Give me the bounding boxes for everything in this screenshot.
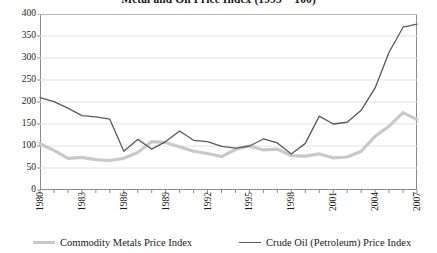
- x-axis-tick-label: 2007: [412, 192, 422, 211]
- y-axis-tick-label: 250: [2, 75, 36, 85]
- x-axis-tick-label: 1992: [203, 192, 213, 211]
- x-axis-tick-label: 2001: [328, 192, 338, 211]
- x-axis-tick-label: 1986: [119, 192, 129, 211]
- plot-area: [40, 14, 417, 190]
- legend-item-crude-oil: Crude Oil (Petroleum) Price Index: [239, 232, 411, 253]
- series-line-crude-oil: [40, 24, 417, 154]
- chart-title: Metal and Oil Price Index (1995 = 100): [0, 0, 437, 6]
- y-axis-tick-labels: 050100150200250300350400: [0, 14, 36, 190]
- chart-svg: [36, 14, 421, 195]
- y-axis-tick-label: 350: [2, 31, 36, 41]
- y-axis-tick-label: 150: [2, 119, 36, 129]
- legend-item-commodity-metals: Commodity Metals Price Index: [33, 232, 192, 253]
- legend-swatch-metals-icon: [33, 241, 55, 244]
- chart-figure: Metal and Oil Price Index (1995 = 100) 0…: [0, 0, 437, 253]
- y-axis-tick-label: 50: [2, 163, 36, 173]
- legend-swatch-oil-icon: [239, 242, 261, 243]
- y-axis-tick-label: 0: [2, 185, 36, 195]
- x-axis-tick-label: 1995: [244, 192, 254, 211]
- x-axis-tick-label: 1983: [77, 192, 87, 211]
- legend-label-metals: Commodity Metals Price Index: [60, 237, 192, 248]
- x-axis-tick-labels: 1980198319861989199219951998200120042007: [40, 192, 417, 232]
- series-line-metals: [40, 113, 417, 161]
- x-axis-tick-label: 1989: [161, 192, 171, 211]
- legend-label-oil: Crude Oil (Petroleum) Price Index: [266, 237, 411, 248]
- y-axis-tick-label: 100: [2, 141, 36, 151]
- y-axis-tick-label: 200: [2, 97, 36, 107]
- x-axis-tick-label: 2004: [370, 192, 380, 211]
- x-axis-tick-label: 1980: [35, 192, 45, 211]
- chart-legend: Commodity Metals Price Index Crude Oil (…: [0, 232, 437, 253]
- y-axis-tick-label: 300: [2, 53, 36, 63]
- y-axis-tick-label: 400: [2, 9, 36, 19]
- x-axis-tick-label: 1998: [286, 192, 296, 211]
